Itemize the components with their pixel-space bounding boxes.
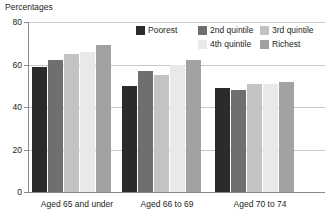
chart-legend: Poorest2nd quintile3rd quintile4th quint… [136, 25, 326, 53]
legend-label: 2nd quintile [210, 25, 253, 36]
bar [263, 84, 278, 192]
bar [96, 45, 111, 192]
y-tick-label-20: 20 [0, 146, 22, 155]
y-tick-label-0: 0 [0, 188, 22, 197]
legend-swatch-icon [198, 26, 207, 35]
bar [64, 54, 79, 192]
legend-label: Richest [272, 39, 300, 50]
y-tick-label-80: 80 [0, 18, 22, 27]
gridline-0 [28, 192, 325, 193]
legend-label: 4th quintile [210, 39, 251, 50]
y-tick-label-40: 40 [0, 103, 22, 112]
legend-swatch-icon [198, 40, 207, 49]
y-tick-mark-0 [24, 192, 28, 193]
y-tick-mark-20 [24, 150, 28, 151]
legend-swatch-icon [260, 26, 269, 35]
y-axis-line [28, 22, 29, 193]
y-tick-label-60: 60 [0, 61, 22, 70]
bar [279, 82, 294, 193]
bar [122, 86, 137, 192]
bar [154, 75, 169, 192]
legend-label: Poorest [148, 25, 177, 36]
legend-swatch-icon [260, 40, 269, 49]
y-tick-mark-60 [24, 65, 28, 66]
bar [48, 60, 63, 192]
bar [138, 71, 153, 192]
y-tick-mark-40 [24, 107, 28, 108]
bar [32, 67, 47, 192]
category-label: Aged 70 to 74 [197, 200, 323, 209]
legend-label: 3rd quintile [272, 25, 314, 36]
bar [186, 60, 201, 192]
bar [215, 88, 230, 192]
bar [247, 84, 262, 192]
bar [231, 90, 246, 192]
bar-group [32, 22, 122, 192]
bar [80, 52, 95, 192]
chart-axis-title: Percentages [5, 2, 53, 12]
y-tick-mark-80 [24, 22, 28, 23]
bar-chart: Percentages 020406080 Aged 65 and underA… [0, 0, 329, 218]
bar [170, 65, 185, 193]
legend-swatch-icon [136, 26, 145, 35]
